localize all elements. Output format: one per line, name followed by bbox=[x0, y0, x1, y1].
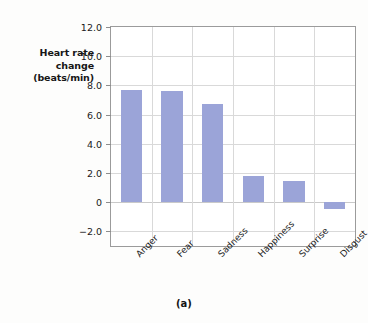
x-gridline bbox=[274, 27, 275, 246]
plot-area: 12.010.08.06.04.02.00−2.0 bbox=[110, 26, 356, 247]
bar-sadness bbox=[202, 104, 223, 202]
bar-happiness bbox=[243, 176, 264, 202]
y-tick-label: −2.0 bbox=[79, 226, 102, 237]
y-axis-title-line-3: (beats/min) bbox=[6, 72, 94, 85]
y-tick-mark bbox=[106, 173, 111, 174]
x-gridline bbox=[314, 27, 315, 246]
bar-disgust bbox=[324, 202, 345, 209]
y-tick-label: 2.0 bbox=[87, 168, 102, 179]
figure-panel: Heart rate change (beats/min) 12.010.08.… bbox=[0, 0, 368, 323]
y-tick-mark bbox=[106, 56, 111, 57]
y-tick-label: 10.0 bbox=[81, 51, 102, 62]
y-tick-mark bbox=[106, 85, 111, 86]
y-tick-label: 0 bbox=[96, 197, 102, 208]
y-tick-label: 12.0 bbox=[81, 22, 102, 33]
bar-anger bbox=[121, 90, 142, 202]
bar-fear bbox=[161, 91, 182, 203]
plot-inner: 12.010.08.06.04.02.00−2.0 bbox=[111, 27, 355, 246]
x-gridline bbox=[152, 27, 153, 246]
figure-caption: (a) bbox=[0, 298, 368, 309]
y-tick-mark bbox=[106, 27, 111, 28]
y-tick-label: 6.0 bbox=[87, 109, 102, 120]
y-tick-label: 4.0 bbox=[87, 138, 102, 149]
y-tick-mark bbox=[106, 231, 111, 232]
y-tick-mark bbox=[106, 202, 111, 203]
bar-surprise bbox=[283, 181, 304, 202]
y-tick-mark bbox=[106, 115, 111, 116]
y-tick-label: 8.0 bbox=[87, 80, 102, 91]
x-gridline bbox=[192, 27, 193, 246]
y-tick-mark bbox=[106, 144, 111, 145]
x-gridline bbox=[233, 27, 234, 246]
